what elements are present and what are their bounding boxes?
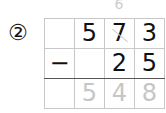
cell: 5 — [135, 49, 165, 79]
cell: 2 — [105, 49, 135, 79]
answer-cell[interactable]: 8 — [135, 79, 165, 109]
answer-cell[interactable]: 5 — [75, 79, 105, 109]
cell: 7 — [105, 19, 135, 49]
minuend-row: 5 7 3 — [45, 19, 165, 49]
borrow-mark: 6 — [108, 0, 130, 11]
cell: 3 — [135, 19, 165, 49]
cell: 5 — [75, 19, 105, 49]
problem-number: ② — [8, 20, 28, 46]
minus-sign: − — [45, 49, 75, 79]
subtraction-grid: 5 7 3 − 2 5 5 4 8 — [44, 18, 165, 109]
cell — [75, 49, 105, 79]
cell — [45, 19, 75, 49]
digit: 7 — [112, 19, 127, 47]
answer-cell[interactable] — [45, 79, 75, 109]
answer-cell[interactable]: 4 — [105, 79, 135, 109]
answer-row: 5 4 8 — [45, 79, 165, 109]
subtrahend-row: − 2 5 — [45, 49, 165, 79]
